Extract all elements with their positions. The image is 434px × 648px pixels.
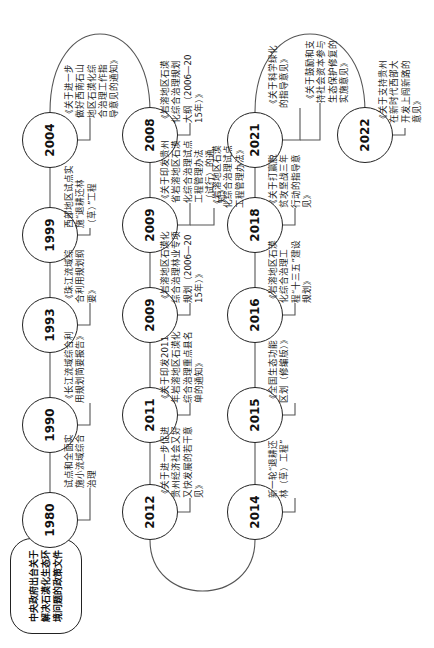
start-box-title: 中央政府出台关于解决石漠化生态环境问题的政策文件: [10, 538, 82, 634]
policy-note-2021-a: 《关于科学绿化的指导意见》: [268, 44, 291, 108]
policy-note-2015: 《全国生态功能区划（修编版）》: [268, 333, 291, 403]
policy-note-1999: 西部地区试点实施“退耕还林（草）”工程: [64, 144, 98, 228]
policy-note-2021-b: 《关于鼓励和支持社会资本参与生态保护修复的实施意见》: [305, 39, 350, 103]
policy-note-2022: 《关于支持贵州在新时代西部大开发上闯新路的意见》: [378, 55, 423, 123]
timeline-diagram: 中央政府出台关于解决石漠化生态环境问题的政策文件 1980 1990 1993 …: [0, 0, 434, 648]
policy-note-2011: 《关于印发2011年岩溶地区石漠化综合治理重点县名单的通知》: [160, 331, 205, 403]
policy-note-2009-b: 《岩溶地区石漠化综合治理林业专项规划（2006—2015年）》: [160, 231, 205, 303]
policy-note-2008: 《岩溶地区石漠化综合治理规划大纲（2006—2015年）》: [160, 53, 205, 123]
policy-note-1980: 试点和全面实施小流域综合治理: [64, 430, 98, 488]
policy-note-2014: 新一轮“退耕还林（草）工程”: [268, 432, 291, 498]
policy-note-1990: 《长江流域综合利用规划简要报告》: [64, 331, 87, 403]
policy-note-1993: 《珠江流域综合利用规划纲要》: [64, 241, 98, 303]
year-node-1980: 1980: [22, 492, 78, 548]
policy-note-2016: 《岩溶地区石漠化综合治理工程“十三五”建设规划》: [268, 237, 313, 303]
policy-note-2018: 《关于打赢脱贫攻坚战三年行动的指导意见》: [268, 146, 313, 208]
policy-note-2012: 《关于进一步促进贵州经济社会又好又快发展的若干意见》: [160, 426, 205, 498]
policy-note-2009-a-2: 《岩溶地区石漠化综合治理试点工程管理办法》: [212, 138, 246, 208]
policy-note-2004: 《关于进一步做好西南石山地区石漠化综合治理工作指导意见的通知》: [64, 56, 121, 118]
